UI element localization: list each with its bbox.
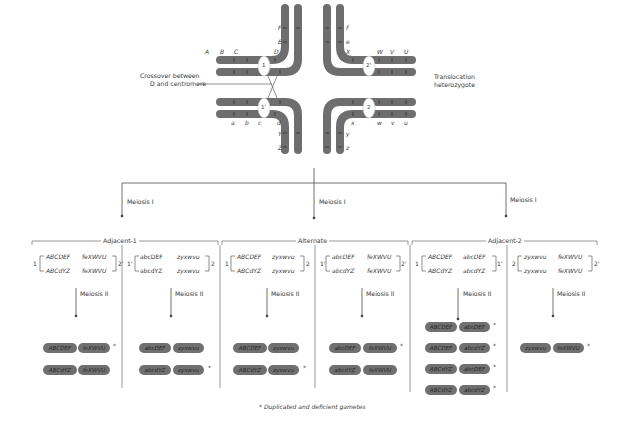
gene-label: d bbox=[277, 120, 281, 126]
chromosome-1prime-lower bbox=[220, 114, 285, 150]
genotype: ABCdYZ bbox=[46, 268, 70, 274]
gamete-chromosome: ABCdYZ bbox=[233, 365, 267, 375]
gamete-chromosome: feXWVU bbox=[553, 343, 584, 353]
gamete-chromosome: feXWVU bbox=[78, 343, 110, 353]
meiosis1-label: Meiosis I bbox=[127, 199, 154, 205]
gene-label: V bbox=[390, 49, 394, 55]
gamete-chromosome: abcdYZ bbox=[329, 365, 361, 375]
gamete-chromosome: feXWVU bbox=[363, 343, 397, 353]
gamete-star: * bbox=[208, 365, 211, 371]
translocation-label-2: heterozygote bbox=[434, 82, 475, 88]
centromere-label: 2' bbox=[366, 63, 371, 69]
genotype: abcdYZ bbox=[332, 268, 354, 274]
genotype: feXWVU bbox=[367, 268, 391, 274]
gene-label: u bbox=[404, 120, 408, 126]
genotype: zyxwvu bbox=[272, 254, 295, 260]
gamete-chromosome: ABCdYZ bbox=[425, 364, 457, 374]
gamete-chromosome: abcdYZ bbox=[459, 343, 490, 353]
gamete-chromosome: zyxwvu bbox=[173, 365, 204, 375]
genotype: ABCdYZ bbox=[428, 268, 452, 274]
genotype: feXWVU bbox=[82, 268, 106, 274]
gamete-chromosome: ABCdYZ bbox=[425, 385, 457, 395]
diagram-graphics bbox=[0, 0, 628, 424]
meiosis2-label: Meiosis II bbox=[175, 291, 203, 297]
gamete-star: * bbox=[587, 343, 590, 349]
centromeres bbox=[258, 56, 375, 118]
genotype: ABCDEF bbox=[428, 254, 452, 260]
genotype: feXWVU bbox=[82, 254, 106, 260]
gene-label: c bbox=[258, 120, 261, 126]
genotype: abcdYZ bbox=[140, 268, 162, 274]
meiosis2-label: Meiosis II bbox=[463, 291, 491, 297]
gene-ticks bbox=[234, 28, 406, 147]
genotype: zyxwvu bbox=[177, 254, 200, 260]
genotype: ABCDEF bbox=[237, 254, 261, 260]
genotype: feXWVU bbox=[367, 254, 391, 260]
gene-label: b bbox=[245, 120, 249, 126]
gamete-star: * bbox=[493, 364, 496, 370]
gamete-chromosome: ABCDEF bbox=[233, 343, 267, 353]
gamete-chromosome: abcdYZ bbox=[139, 365, 171, 375]
panel-right-number: 2' bbox=[401, 261, 406, 267]
crossover-label: Crossover between bbox=[140, 73, 199, 79]
gene-label: y bbox=[346, 131, 350, 137]
panel-left-number: 1' bbox=[320, 261, 325, 267]
gene-label: a bbox=[231, 120, 235, 126]
gene-label: E bbox=[278, 39, 282, 45]
gene-label: Z bbox=[278, 145, 282, 151]
gamete-star: * bbox=[400, 343, 403, 349]
panel-left-number: 1 bbox=[225, 261, 229, 267]
panel-left-number: 1' bbox=[127, 261, 132, 267]
panel-left-number: 1 bbox=[415, 261, 419, 267]
gamete-chromosome: abcDEF bbox=[329, 343, 361, 353]
genotype: abcDEF bbox=[140, 254, 163, 260]
gamete-chromosome: ABCdYZ bbox=[43, 365, 77, 375]
gene-label: A bbox=[205, 49, 209, 55]
panel-right-number: 2' bbox=[594, 261, 599, 267]
gene-label: C bbox=[234, 49, 238, 55]
meiosis1-label: Meiosis I bbox=[319, 199, 346, 205]
genotype: ABCdYZ bbox=[237, 268, 261, 274]
gamete-star: * bbox=[493, 385, 496, 391]
translocation-label: Translocation bbox=[434, 74, 475, 80]
meiosis2-label: Meiosis II bbox=[366, 291, 394, 297]
gamete-chromosome: zyxwvu bbox=[520, 343, 551, 353]
genotype: abcDEF bbox=[463, 254, 486, 260]
chromosome-2prime-upper bbox=[340, 8, 412, 60]
gamete-chromosome: abcDEF bbox=[459, 364, 490, 374]
crossover-lines bbox=[198, 76, 277, 98]
gamete-star: * bbox=[493, 322, 496, 328]
gene-label: B bbox=[220, 49, 224, 55]
gamete-chromosome: zyxwvu bbox=[268, 365, 299, 375]
group-title-adjacent-2: Adjacent-2 bbox=[486, 238, 524, 244]
gene-label: D bbox=[274, 49, 279, 55]
gamete-star: * bbox=[303, 365, 306, 371]
gene-label: Y bbox=[278, 131, 282, 137]
gene-label: W bbox=[377, 49, 383, 55]
genotype: zyxwvu bbox=[524, 254, 547, 260]
gene-label: F bbox=[278, 25, 281, 31]
group-title-adjacent-1: Adjacent-1 bbox=[101, 238, 139, 244]
gene-label: x bbox=[351, 120, 355, 126]
meiosis1-arrows bbox=[121, 168, 507, 219]
translocation-meiosis-diagram: A B C D F E X W V U f e a b c d Y Z x w … bbox=[0, 0, 628, 424]
footnote: * Duplicated and deficient gametes bbox=[259, 404, 366, 410]
gamete-chromosome: zyxwvu bbox=[268, 343, 299, 353]
meiosis2-label: Meiosis II bbox=[80, 291, 108, 297]
gamete-chromosome: feXWVU bbox=[78, 365, 110, 375]
meiosis2-label: Meiosis II bbox=[271, 291, 299, 297]
genotype: ABCDEF bbox=[46, 254, 70, 260]
gamete-chromosome: ABCDEF bbox=[425, 322, 457, 332]
genotype: zyxwvu bbox=[177, 268, 200, 274]
gene-label: X bbox=[346, 49, 350, 55]
gamete-star: * bbox=[113, 343, 116, 349]
gene-label: f bbox=[346, 25, 348, 31]
chromosomes bbox=[220, 8, 412, 150]
group-title-alternate: Alternate bbox=[296, 238, 329, 244]
gamete-chromosome: ABCDEF bbox=[43, 343, 77, 353]
gene-label: v bbox=[391, 120, 395, 126]
panel-right-number: 2 bbox=[306, 261, 310, 267]
gamete-chromosome: ABCDEF bbox=[425, 343, 457, 353]
genotype: feXWVU bbox=[558, 268, 582, 274]
genotype: feXWVU bbox=[558, 254, 582, 260]
